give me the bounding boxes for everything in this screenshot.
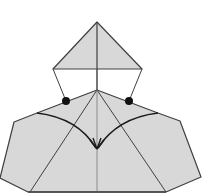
origami-diagram bbox=[0, 0, 203, 195]
right-reference-dot bbox=[125, 97, 133, 105]
right-connector-line bbox=[129, 69, 142, 101]
left-connector-line bbox=[53, 69, 66, 101]
left-reference-dot bbox=[62, 97, 70, 105]
